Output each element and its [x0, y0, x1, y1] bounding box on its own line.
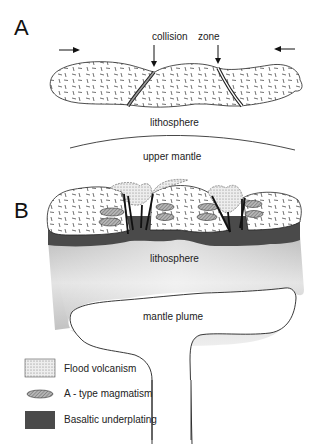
legend-a-type-magmatism: A - type magmatism: [64, 388, 152, 399]
lithosphere-label-b: lithosphere: [150, 253, 199, 264]
collision-arrow-1-icon: [151, 45, 157, 67]
continental-block-a: [50, 62, 302, 107]
lithosphere-label-a: lithosphere: [150, 117, 199, 128]
lithosphere-base-arc: [70, 135, 295, 150]
legend-flood-volcanism: Flood volcanism: [64, 363, 136, 374]
convergence-arrow-right-icon: [274, 46, 295, 52]
legend: Flood volcanism A - type magmatism Basal…: [25, 359, 157, 429]
panel-a-label: A: [14, 15, 29, 40]
panel-b-label: B: [14, 198, 29, 223]
flood-volcanism-swatch: [25, 359, 55, 377]
plume-stem-fill: [153, 380, 191, 444]
basaltic-underplating-swatch: [25, 411, 55, 429]
collision-arrow-2-icon: [215, 45, 221, 64]
tectonic-diagram: A collision zone lithosphere upper mantl…: [0, 0, 329, 444]
a-type-magmatism-swatch: [27, 390, 53, 398]
upper-mantle-label: upper mantle: [143, 151, 202, 162]
legend-basaltic-underplating: Basaltic underplating: [64, 414, 157, 425]
convergence-arrow-left-icon: [59, 47, 80, 53]
mantle-plume-label: mantle plume: [143, 311, 203, 322]
collision-label: collision: [152, 31, 188, 42]
zone-label: zone: [198, 31, 220, 42]
